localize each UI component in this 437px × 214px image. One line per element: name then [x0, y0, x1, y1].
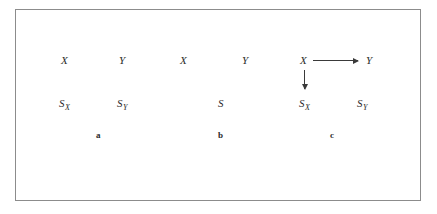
panel-c-node-y: Y — [366, 55, 372, 66]
panel-c-node-sy-base: S — [357, 97, 363, 109]
panel-c-arrow-x-to-sx — [304, 70, 305, 89]
panel-label-c: c — [330, 131, 334, 140]
panel-a-node-sy: SY — [117, 98, 127, 109]
panel-c-arrow-x-to-y — [313, 60, 358, 61]
panel-c-node-sy: SY — [357, 98, 367, 109]
panel-b-node-x: X — [180, 55, 187, 66]
panel-a-node-sx-subscript: X — [65, 103, 70, 112]
panel-a-node-sy-subscript: Y — [123, 103, 127, 112]
panel-c-node-sy-subscript: Y — [363, 103, 367, 112]
panel-b-node-s: S — [218, 98, 224, 109]
figure-canvas: X Y SX SY a X Y S b X Y SX SY c — [0, 0, 437, 214]
panel-c-node-sx-subscript: X — [305, 103, 310, 112]
panel-c-node-sx: SX — [299, 98, 309, 109]
panel-label-b: b — [218, 131, 223, 140]
panel-a-node-sy-base: S — [117, 97, 123, 109]
panel-a-node-x: X — [61, 55, 68, 66]
panel-c-node-x: X — [300, 55, 307, 66]
panel-a-node-sx-base: S — [59, 97, 65, 109]
panel-a-node-sx: SX — [59, 98, 69, 109]
panel-label-a: a — [96, 131, 101, 140]
panel-c-node-sx-base: S — [299, 97, 305, 109]
panel-a-node-y: Y — [119, 55, 125, 66]
panel-b-node-y: Y — [242, 55, 248, 66]
